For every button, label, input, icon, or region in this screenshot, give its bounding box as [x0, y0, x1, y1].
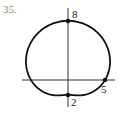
point-top [66, 19, 70, 23]
point-bottom [66, 93, 70, 97]
label-bottom: 2 [71, 96, 77, 108]
label-right: 5 [101, 83, 107, 95]
polar-plot: 8 5 2 [0, 0, 119, 116]
point-right [103, 78, 107, 82]
label-top: 8 [72, 8, 78, 20]
